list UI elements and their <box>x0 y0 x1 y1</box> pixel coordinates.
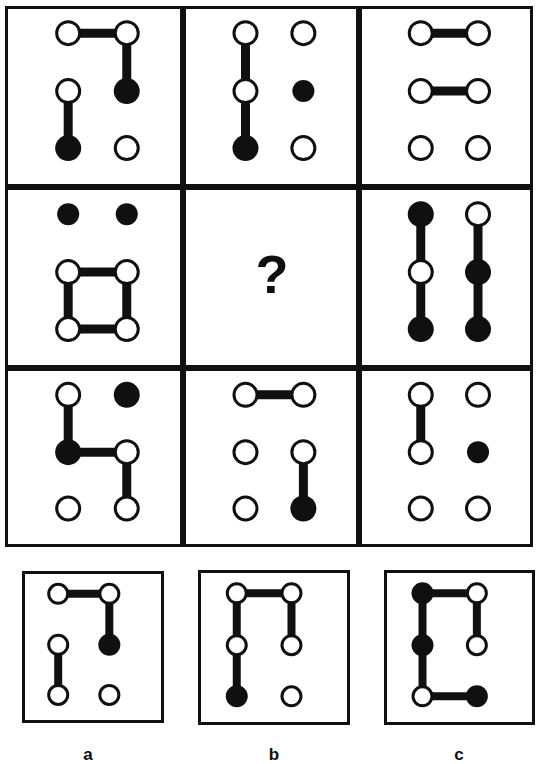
node-open <box>409 137 432 160</box>
node-open <box>467 584 486 603</box>
node-open <box>467 636 486 655</box>
node-filled <box>292 80 314 102</box>
node-open <box>234 441 257 464</box>
node-filled <box>226 685 248 707</box>
node-open <box>115 441 138 464</box>
node-filled <box>412 582 434 604</box>
node-open <box>409 80 432 103</box>
node-open <box>57 497 80 520</box>
node-open <box>49 685 68 704</box>
node-open <box>57 383 80 406</box>
node-open <box>100 685 119 704</box>
node-open <box>234 497 257 520</box>
option-b-label: b <box>269 745 279 764</box>
node-filled <box>114 78 140 104</box>
node-open <box>100 584 119 603</box>
node-open <box>282 584 301 603</box>
node-open <box>282 687 301 706</box>
node-filled <box>465 316 491 342</box>
option-c-label: c <box>454 745 463 764</box>
node-filled <box>290 496 316 522</box>
node-filled <box>408 201 434 227</box>
node-open <box>467 383 490 406</box>
node-filled <box>467 441 489 463</box>
node-filled <box>466 685 488 707</box>
node-open <box>292 22 315 45</box>
node-open <box>115 318 138 341</box>
node-open <box>409 22 432 45</box>
node-filled <box>57 203 79 225</box>
node-open <box>57 22 80 45</box>
node-open <box>409 261 432 284</box>
node-open <box>467 137 490 160</box>
node-filled <box>98 634 120 656</box>
node-filled <box>408 316 434 342</box>
node-open <box>409 441 432 464</box>
node-filled <box>465 259 491 285</box>
node-open <box>115 137 138 160</box>
node-open <box>234 80 257 103</box>
node-open <box>234 22 257 45</box>
node-open <box>115 261 138 284</box>
node-open <box>292 441 315 464</box>
node-open <box>409 497 432 520</box>
puzzle-canvas: ?abc <box>0 0 541 764</box>
node-open <box>234 383 257 406</box>
question-mark: ? <box>255 244 288 304</box>
node-open <box>227 636 246 655</box>
node-open <box>57 80 80 103</box>
node-open <box>467 203 490 226</box>
node-open <box>413 687 432 706</box>
node-open <box>292 137 315 160</box>
node-open <box>115 22 138 45</box>
node-open <box>57 261 80 284</box>
node-open <box>57 318 80 341</box>
option-a-label: a <box>83 745 93 764</box>
node-open <box>409 383 432 406</box>
node-filled <box>55 135 81 161</box>
node-open <box>49 584 68 603</box>
node-open <box>467 497 490 520</box>
node-filled <box>412 634 434 656</box>
node-open <box>49 635 68 654</box>
node-open <box>467 22 490 45</box>
node-filled <box>55 439 81 465</box>
node-filled <box>114 382 140 408</box>
node-open <box>282 636 301 655</box>
node-open <box>467 80 490 103</box>
node-filled <box>232 135 258 161</box>
puzzle-stage: ?abc <box>0 0 541 764</box>
node-open <box>115 497 138 520</box>
node-open <box>227 584 246 603</box>
node-open <box>292 383 315 406</box>
node-filled <box>116 203 138 225</box>
